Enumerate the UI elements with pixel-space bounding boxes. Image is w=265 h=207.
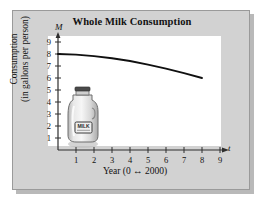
x-tick-label-2: 2 — [92, 155, 96, 165]
x-tick-labels: 1 2 3 4 5 6 7 8 9 — [74, 155, 222, 165]
y-tick-label-6: 6 — [47, 73, 51, 83]
figure-container: Whole Milk Consumption M t Consumption (… — [0, 0, 265, 207]
y-tick-label-4: 4 — [47, 97, 52, 107]
data-series-curve — [58, 54, 202, 78]
x-tick-label-1: 1 — [74, 155, 78, 165]
chart-axes-and-series: 9 8 7 6 5 4 3 2 1 1 2 3 4 5 — [0, 0, 265, 207]
y-tick-label-7: 7 — [47, 61, 51, 71]
y-tick-label-2: 2 — [47, 121, 51, 131]
x-tick-label-9: 9 — [218, 155, 222, 165]
y-tick-label-3: 3 — [47, 109, 51, 119]
y-axis-arrowhead — [56, 32, 61, 38]
x-tick-label-5: 5 — [146, 155, 150, 165]
y-tick-label-5: 5 — [47, 85, 51, 95]
x-tick-label-6: 6 — [164, 155, 168, 165]
y-tick-labels: 9 8 7 6 5 4 3 2 1 — [47, 37, 52, 143]
x-tick-label-8: 8 — [200, 155, 204, 165]
x-tick-label-7: 7 — [182, 155, 186, 165]
x-tick-label-3: 3 — [110, 155, 114, 165]
x-tick-label-4: 4 — [128, 155, 133, 165]
y-tick-label-9: 9 — [47, 37, 51, 47]
y-tick-label-8: 8 — [47, 49, 51, 59]
y-tick-label-1: 1 — [47, 133, 51, 143]
x-axis-arrowhead — [222, 147, 229, 152]
